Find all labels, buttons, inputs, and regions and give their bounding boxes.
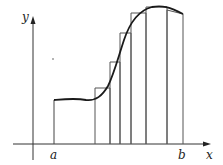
label-a: a (50, 148, 57, 162)
riemann-sum-diagram: y x a b (0, 0, 223, 165)
x-axis-label: x (206, 148, 213, 162)
rectangle-1 (95, 88, 110, 144)
x-axis-arrow-icon (203, 142, 211, 147)
rectangle-4 (131, 13, 146, 144)
riemann-rectangles (95, 7, 183, 144)
y-axis-arrow-icon (31, 16, 36, 24)
rectangle-6 (167, 10, 183, 144)
diagram-canvas: y x a b (0, 0, 223, 165)
rectangle-5 (146, 7, 167, 144)
label-b: b (178, 148, 186, 162)
y-axis-label: y (21, 10, 29, 24)
rectangle-2 (110, 62, 120, 144)
stray-dot (52, 58, 54, 60)
function-curve (54, 6, 183, 100)
